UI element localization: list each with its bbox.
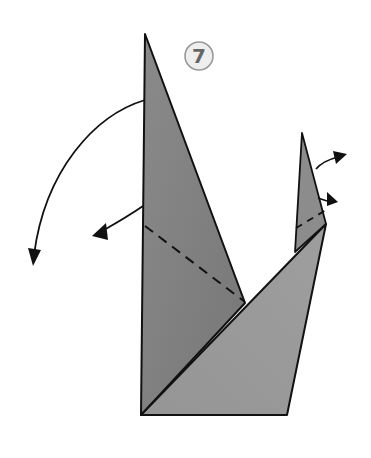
step-number-badge: 7 [185,42,213,70]
origami-step-diagram: 7 [0,0,371,458]
right-upper-arrow [316,151,347,169]
large-rotate-arrow [28,100,145,266]
step-number: 7 [192,44,206,68]
left-fold-arrow [92,206,143,240]
